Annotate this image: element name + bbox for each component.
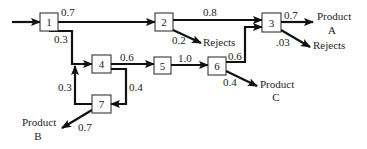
svg-text:5: 5 [160,60,166,72]
edge-label-6-product-c: 0.4 [223,76,237,88]
svg-text:1: 1 [46,16,52,28]
output-product-b-line2: B [34,130,41,142]
output-product-b-line1: Product [22,116,56,128]
edge-label-4-5: 0.6 [120,51,134,63]
node-1: 1 [40,13,58,31]
node-2: 2 [155,13,173,31]
output-product-a-line2: A [328,24,336,36]
node-3: 3 [262,13,281,32]
svg-text:4: 4 [99,58,105,70]
edge-label-2-3: 0.8 [203,6,217,18]
node-6: 6 [208,57,226,75]
node-7: 7 [92,95,111,113]
output-product-c-line2: C [272,91,279,103]
svg-text:7: 7 [99,98,105,110]
output-rejects-2: Rejects [313,39,345,51]
node-5: 5 [154,57,171,74]
process-flow-diagram: 0.7 0.3 0.8 0.2 0.6 0.4 0.3 0.7 1.0 0.6 … [0,0,367,149]
edge-label-7-product-b: 0.7 [78,121,92,133]
output-product-c-line1: Product [260,78,294,90]
edge-label-5-6: 1.0 [178,52,192,64]
svg-text:3: 3 [269,17,275,29]
output-rejects-1: Rejects [203,36,235,48]
edge-label-4-7: 0.4 [129,81,143,93]
edge-4-to-7 [111,69,126,104]
svg-text:6: 6 [214,60,220,72]
edge-label-7-4: 0.3 [58,81,72,93]
edge-label-3-rejects: .03 [276,36,290,48]
edge-label-3-product-a: 0.7 [284,9,298,21]
output-product-a-line1: Product [317,10,351,22]
edge-7-to-4 [75,66,92,104]
edge-label-1-4: 0.3 [54,33,68,45]
svg-text:2: 2 [161,16,167,28]
node-4: 4 [92,55,111,73]
edge-label-2-rejects: 0.2 [172,34,186,46]
edge-label-6-3: 0.6 [228,50,242,62]
edge-label-1-2: 0.7 [61,6,75,18]
